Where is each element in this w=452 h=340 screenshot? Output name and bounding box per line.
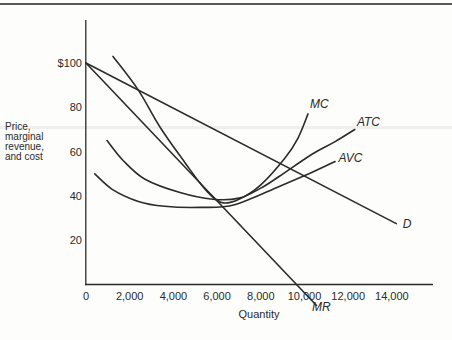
y-tick-label: 80 bbox=[70, 101, 82, 113]
tick-labels: $1008060402002,0004,0006,0008,00010,0001… bbox=[58, 57, 409, 302]
y-tick-label: 20 bbox=[70, 234, 82, 246]
curve-label-marginal-cost: MC bbox=[310, 97, 329, 111]
cost-revenue-figure: $1008060402002,0004,0006,0008,00010,0001… bbox=[0, 0, 452, 340]
y-tick-label: 40 bbox=[70, 190, 82, 202]
x-tick-label: 2,000 bbox=[116, 290, 144, 302]
y-tick-label: $100 bbox=[58, 57, 82, 69]
curve-label-average-total-cost: ATC bbox=[356, 115, 380, 129]
scan-artifact bbox=[0, 126, 452, 129]
x-tick-label: 8,000 bbox=[247, 290, 275, 302]
curve-label-marginal-revenue: MR bbox=[312, 300, 331, 314]
y-tick-label: 60 bbox=[70, 146, 82, 158]
curve-label-demand: D bbox=[403, 217, 412, 231]
curve-marginal-cost bbox=[113, 56, 308, 203]
chart-canvas: $1008060402002,0004,0006,0008,00010,0001… bbox=[0, 0, 452, 340]
curve-average-total-cost bbox=[107, 130, 355, 200]
curve-label-average-variable-cost: AVC bbox=[337, 151, 362, 165]
x-tick-label: 6,000 bbox=[203, 290, 231, 302]
x-tick-label: 0 bbox=[83, 290, 89, 302]
x-axis-title: Quantity bbox=[239, 308, 280, 320]
y-axis-title-line: and cost bbox=[5, 151, 43, 162]
curves bbox=[86, 56, 396, 305]
x-tick-label: 14,000 bbox=[375, 290, 409, 302]
x-tick-label: 12,000 bbox=[331, 290, 365, 302]
x-tick-label: 4,000 bbox=[160, 290, 188, 302]
scan-artifact-bands bbox=[0, 126, 452, 129]
